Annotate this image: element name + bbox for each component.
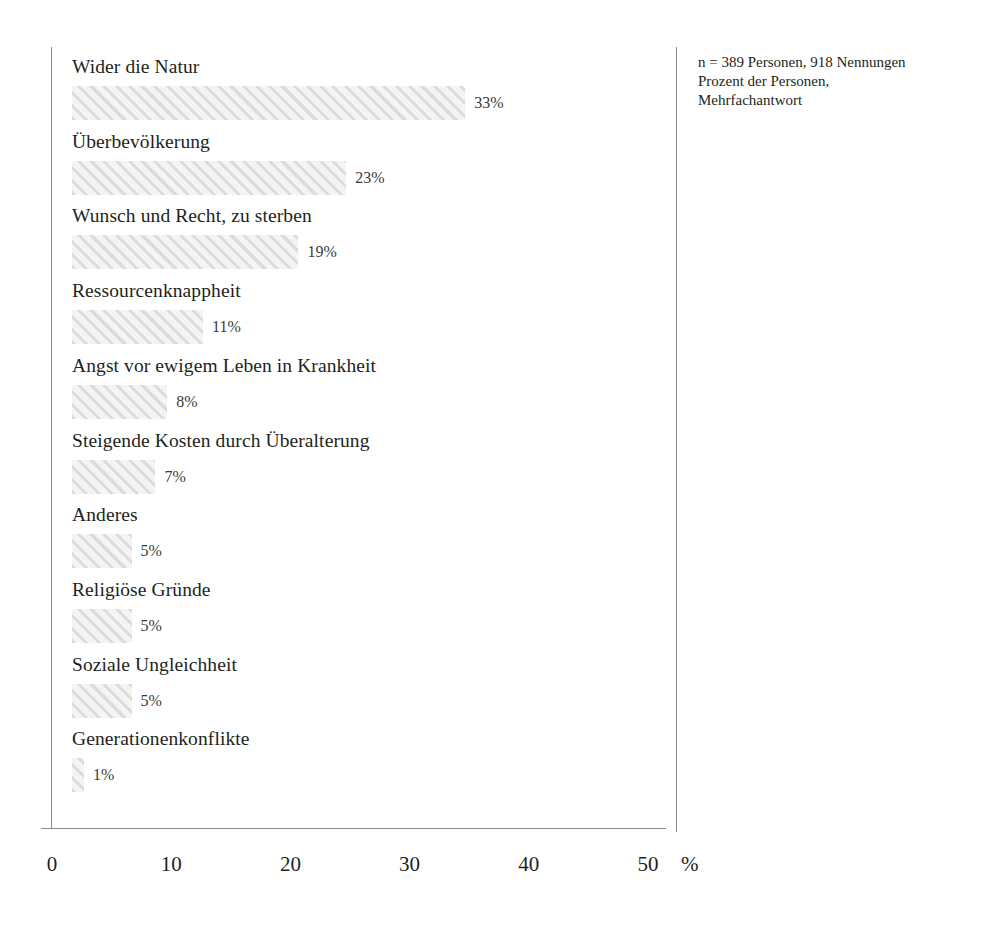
- bar: [72, 460, 155, 494]
- bar-track: 8%: [72, 385, 672, 419]
- x-tick-label: 10: [161, 852, 182, 876]
- bar-row: Wunsch und Recht, zu sterben19%: [0, 202, 676, 277]
- bar-category-label: Steigende Kosten durch Überalterung: [72, 429, 370, 453]
- bar-category-label: Anderes: [72, 503, 138, 527]
- bar-track: 1%: [72, 758, 672, 792]
- bar-category-label: Wider die Natur: [72, 55, 199, 79]
- annotation-line-2: Prozent der Personen,: [698, 72, 963, 91]
- bar: [72, 534, 132, 568]
- bar-row: Überbevölkerung23%: [0, 128, 676, 203]
- bar: [72, 385, 167, 419]
- bar-track: 23%: [72, 161, 672, 195]
- bar-track: 11%: [72, 310, 672, 344]
- bar-category-label: Generationenkonflikte: [72, 727, 250, 751]
- bar: [72, 684, 132, 718]
- bar-row: Soziale Ungleichheit5%: [0, 651, 676, 726]
- bar-track: 19%: [72, 235, 672, 269]
- bar-row: Steigende Kosten durch Überalterung7%: [0, 427, 676, 502]
- bar-track: 5%: [72, 609, 672, 643]
- annotation-line-1: n = 389 Personen, 918 Nennungen: [698, 53, 963, 72]
- note-divider-line: [676, 47, 677, 832]
- bar-track: 33%: [72, 86, 672, 120]
- bar-value-label: 5%: [141, 692, 162, 710]
- x-tick-label: 40: [518, 852, 539, 876]
- bar-value-label: 11%: [212, 318, 241, 336]
- bar-category-label: Überbevölkerung: [72, 130, 210, 154]
- x-tick-label: 0: [47, 852, 58, 876]
- x-tick-label: 20: [280, 852, 301, 876]
- bar-category-label: Angst vor ewigem Leben in Krankheit: [72, 354, 376, 378]
- bar-row: Wider die Natur33%: [0, 53, 676, 128]
- bar-category-label: Ressourcenknappheit: [72, 279, 241, 303]
- bar-value-label: 19%: [307, 243, 336, 261]
- x-axis-unit-label: %: [681, 852, 699, 876]
- chart-annotation: n = 389 Personen, 918 Nennungen Prozent …: [698, 53, 963, 110]
- bar-row: Anderes5%: [0, 501, 676, 576]
- bar-track: 5%: [72, 684, 672, 718]
- bar-plot-area: Wider die Natur33%Überbevölkerung23%Wuns…: [0, 0, 676, 828]
- bar-value-label: 8%: [176, 393, 197, 411]
- bar-track: 5%: [72, 534, 672, 568]
- bar: [72, 161, 346, 195]
- bar-value-label: 23%: [355, 169, 384, 187]
- bar-track: 7%: [72, 460, 672, 494]
- bar-row: Generationenkonflikte1%: [0, 725, 676, 800]
- bar-value-label: 1%: [93, 766, 114, 784]
- bar-category-label: Wunsch und Recht, zu sterben: [72, 204, 312, 228]
- bar: [72, 235, 298, 269]
- bar-row: Religiöse Gründe5%: [0, 576, 676, 651]
- bar-value-label: 5%: [141, 617, 162, 635]
- bar-row: Ressourcenknappheit11%: [0, 277, 676, 352]
- x-axis-line: [41, 828, 666, 829]
- bar-value-label: 5%: [141, 542, 162, 560]
- bar: [72, 86, 465, 120]
- bar-row: Angst vor ewigem Leben in Krankheit8%: [0, 352, 676, 427]
- x-tick-label: 30: [399, 852, 420, 876]
- bar-value-label: 33%: [474, 94, 503, 112]
- x-tick-label: 50: [638, 852, 659, 876]
- chart-container: Wider die Natur33%Überbevölkerung23%Wuns…: [0, 0, 984, 928]
- bar: [72, 758, 84, 792]
- annotation-line-3: Mehrfachantwort: [698, 91, 963, 110]
- bar: [72, 609, 132, 643]
- bar-category-label: Soziale Ungleichheit: [72, 653, 237, 677]
- bar-category-label: Religiöse Gründe: [72, 578, 211, 602]
- bar-value-label: 7%: [164, 468, 185, 486]
- bar: [72, 310, 203, 344]
